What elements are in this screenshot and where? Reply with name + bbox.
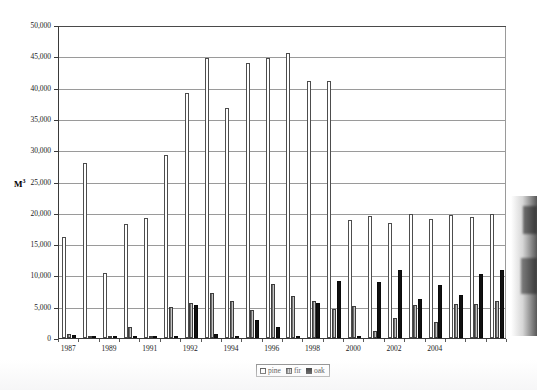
- x-axis-tick-label: 1987: [54, 344, 82, 353]
- bar-fir: [88, 336, 92, 338]
- chart-page: M3 pinefiroak 05,00010,00015,00020,00025…: [0, 0, 537, 390]
- legend-item-oak[interactable]: oak: [306, 366, 325, 375]
- bar-fir: [189, 303, 193, 338]
- bar-pine: [266, 58, 270, 338]
- x-axis-tick-label: 2000: [339, 344, 367, 353]
- bar-oak: [153, 336, 157, 338]
- x-axis-tick-mark: [241, 339, 242, 342]
- legend-label-fir: fir: [294, 366, 301, 375]
- y-axis-tick-mark: [54, 214, 58, 215]
- bar-oak: [438, 285, 442, 338]
- x-axis-tick-mark: [445, 339, 446, 342]
- x-axis-tick-mark: [302, 339, 303, 342]
- y-axis-tick-label: 50,000: [0, 22, 51, 30]
- x-axis-tick-mark: [262, 339, 263, 342]
- x-axis-tick-mark: [404, 339, 405, 342]
- bar-pine: [470, 217, 474, 338]
- y-axis-tick-mark: [54, 151, 58, 152]
- x-axis-tick-mark: [119, 339, 120, 342]
- x-axis-tick-mark: [160, 339, 161, 342]
- y-axis-tick-label: 40,000: [0, 85, 51, 93]
- bar-oak: [194, 305, 198, 338]
- bar-pine: [429, 219, 433, 338]
- bar-pine: [62, 237, 66, 338]
- x-axis-tick-label: 1989: [95, 344, 123, 353]
- bar-pine: [164, 155, 168, 338]
- bar-pine: [307, 81, 311, 338]
- x-axis-tick-mark: [486, 339, 487, 342]
- bar-oak: [133, 336, 137, 338]
- bar-pine: [124, 224, 128, 338]
- page-title-fragment: [150, 0, 480, 9]
- bar-oak: [398, 270, 402, 338]
- bar-pine: [286, 53, 290, 338]
- y-axis-tick-label: 15,000: [0, 241, 51, 249]
- x-axis-tick-mark: [282, 339, 283, 342]
- x-axis-tick-mark: [465, 339, 466, 342]
- bar-pine: [205, 58, 209, 338]
- bar-oak: [235, 336, 239, 338]
- y-axis-tick-label: 30,000: [0, 147, 51, 155]
- legend-swatch-pine-icon: [260, 368, 266, 374]
- bar-oak: [113, 336, 117, 338]
- y-axis-tick-label: 45,000: [0, 53, 51, 61]
- x-axis-tick-mark: [180, 339, 181, 342]
- bar-oak: [500, 270, 504, 338]
- y-axis-tick-mark: [54, 308, 58, 309]
- bar-oak: [459, 295, 463, 338]
- x-axis-tick-label: 2002: [380, 344, 408, 353]
- chart-legend: pinefiroak: [256, 364, 330, 377]
- bar-fir: [413, 305, 417, 338]
- x-axis-tick-label: 2004: [421, 344, 449, 353]
- y-axis-tick-label: 35,000: [0, 116, 51, 124]
- legend-swatch-fir-icon: [286, 368, 292, 374]
- bar-oak: [296, 336, 300, 338]
- x-axis-tick-label: 1994: [217, 344, 245, 353]
- bar-pine: [327, 81, 331, 338]
- x-axis-tick-mark: [384, 339, 385, 342]
- scan-artifact-blob-lower: [521, 258, 537, 294]
- bar-fir: [474, 304, 478, 338]
- y-axis-tick-mark: [54, 245, 58, 246]
- x-axis-tick-mark: [506, 339, 507, 342]
- bar-pine: [144, 218, 148, 338]
- bar-oak: [479, 274, 483, 338]
- bar-fir: [495, 301, 499, 338]
- bar-fir: [149, 336, 153, 338]
- bar-oak: [72, 335, 76, 338]
- bar-pine: [83, 163, 87, 338]
- bar-oak: [255, 320, 259, 338]
- y-axis-tick-mark: [54, 57, 58, 58]
- y-axis-tick-label: 20,000: [0, 210, 51, 218]
- bar-fir: [210, 293, 214, 338]
- bar-pine: [246, 63, 250, 338]
- x-axis-tick-mark: [139, 339, 140, 342]
- gridline: [59, 214, 506, 215]
- bar-fir: [169, 307, 173, 338]
- bar-oak: [418, 299, 422, 338]
- bar-pine: [409, 214, 413, 338]
- y-axis-tick-label: 5,000: [0, 304, 51, 312]
- x-axis-tick-mark: [425, 339, 426, 342]
- legend-item-fir[interactable]: fir: [286, 366, 301, 375]
- bar-fir: [67, 334, 71, 338]
- y-axis-tick-label: 25,000: [0, 179, 51, 187]
- bar-pine: [490, 214, 494, 338]
- bar-oak: [214, 334, 218, 338]
- bar-fir: [332, 309, 336, 338]
- gridline: [59, 26, 506, 27]
- bar-oak: [377, 282, 381, 338]
- bar-fir: [352, 306, 356, 338]
- x-axis-tick-mark: [99, 339, 100, 342]
- bar-fir: [291, 296, 295, 338]
- bar-pine: [348, 220, 352, 338]
- x-axis-tick-label: 1996: [258, 344, 286, 353]
- legend-item-pine[interactable]: pine: [260, 366, 281, 375]
- bar-fir: [250, 310, 254, 338]
- gridline: [59, 57, 506, 58]
- x-axis-tick-label: 1991: [136, 344, 164, 353]
- gridline: [59, 120, 506, 121]
- bar-pine: [368, 216, 372, 338]
- y-axis-tick-label: 10,000: [0, 272, 51, 280]
- y-axis-tick-mark: [54, 183, 58, 184]
